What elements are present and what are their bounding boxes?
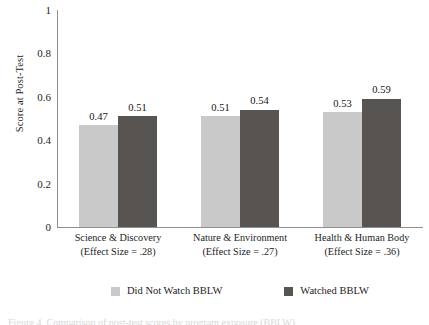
bar[interactable]: 0.51 — [118, 116, 157, 227]
bar-rect — [323, 112, 362, 227]
x-axis-category-name: Health & Human Body — [315, 232, 410, 243]
x-axis-label-group: Science & Discovery(Effect Size = .28)Na… — [57, 231, 423, 258]
x-axis-category-name: Science & Discovery — [75, 232, 162, 243]
figure-caption: Figure 4. Comparison of post-test scores… — [8, 317, 408, 325]
x-axis-category-label: Health & Human Body(Effect Size = .36) — [301, 231, 423, 258]
x-axis-effect-size-label: (Effect Size = .28) — [57, 245, 179, 259]
legend-item[interactable]: Did Not Watch BBLW — [111, 286, 222, 297]
bar-value-label: 0.54 — [250, 96, 268, 107]
x-axis-category-label: Nature & Environment(Effect Size = .27) — [179, 231, 301, 258]
y-tick-label: 0 — [11, 222, 51, 233]
y-tick-label: 1 — [11, 5, 51, 16]
bar-value-label: 0.53 — [333, 99, 351, 110]
bar-group: 0.510.54 — [179, 10, 301, 227]
x-axis-category-label: Science & Discovery(Effect Size = .28) — [57, 231, 179, 258]
bar[interactable]: 0.54 — [240, 110, 279, 227]
bar-group-container: 0.470.510.510.540.530.59 — [57, 10, 423, 227]
bar-value-label: 0.51 — [211, 103, 229, 114]
bar-rect — [201, 116, 240, 227]
x-axis-line — [57, 227, 423, 228]
bar[interactable]: 0.47 — [79, 125, 118, 227]
bar-group: 0.470.51 — [57, 10, 179, 227]
chart-legend: Did Not Watch BBLWWatched BBLW — [57, 286, 423, 297]
bar-value-label: 0.59 — [372, 85, 390, 96]
y-tick-label: 0.4 — [11, 135, 51, 146]
bar-group: 0.530.59 — [301, 10, 423, 227]
bar-rect — [79, 125, 118, 227]
legend-swatch-icon — [111, 287, 120, 296]
bar[interactable]: 0.53 — [323, 112, 362, 227]
x-axis-category-name: Nature & Environment — [193, 232, 287, 243]
y-tick-label: 0.2 — [11, 178, 51, 189]
legend-swatch-icon — [284, 287, 293, 296]
legend-item[interactable]: Watched BBLW — [284, 286, 369, 297]
bar-chart-figure: Score at Post-Test 10.80.60.40.20 0.470.… — [0, 0, 429, 325]
y-tick-label: 0.6 — [11, 91, 51, 102]
x-axis-effect-size-label: (Effect Size = .36) — [301, 245, 423, 259]
plot-area: 10.80.60.40.20 0.470.510.510.540.530.59 — [57, 10, 423, 227]
bar-rect — [240, 110, 279, 227]
bar[interactable]: 0.51 — [201, 116, 240, 227]
bar[interactable]: 0.59 — [362, 99, 401, 227]
bar-rect — [362, 99, 401, 227]
bar-value-label: 0.51 — [128, 103, 146, 114]
legend-label: Did Not Watch BBLW — [127, 286, 222, 297]
legend-label: Watched BBLW — [300, 286, 369, 297]
bar-rect — [118, 116, 157, 227]
y-tick-label: 0.8 — [11, 48, 51, 59]
x-axis-effect-size-label: (Effect Size = .27) — [179, 245, 301, 259]
bar-value-label: 0.47 — [89, 112, 107, 123]
